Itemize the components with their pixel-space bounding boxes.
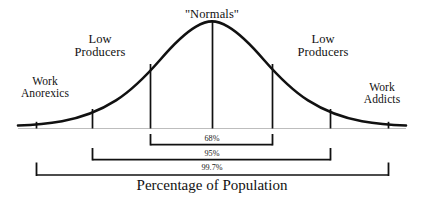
left-low-producers-label: Low Producers [62, 33, 138, 59]
right-low-producers-line2: Producers [285, 46, 361, 59]
right-low-producers-label: Low Producers [285, 33, 361, 59]
interval-label-68: 68% [182, 134, 242, 143]
peak-label: "Normals" [176, 8, 248, 21]
work-addicts-label: Work Addicts [345, 82, 419, 106]
interval-label-95: 95% [182, 149, 242, 158]
interval-label-997: 99.7% [182, 163, 242, 172]
figure-caption: Percentage of Population [82, 177, 342, 194]
work-anorexics-label: Work Anorexics [6, 76, 84, 100]
work-addicts-line2: Addicts [345, 94, 419, 106]
work-anorexics-line2: Anorexics [6, 88, 84, 100]
left-low-producers-line2: Producers [62, 46, 138, 59]
normal-distribution-figure: "Normals" Low Producers Low Producers Wo… [0, 0, 424, 199]
